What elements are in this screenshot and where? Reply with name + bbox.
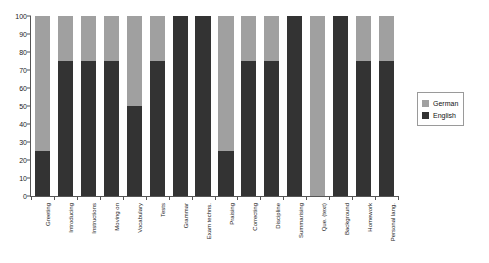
x-axis-label: Personal lang. (390, 203, 396, 241)
bar-segment-english (104, 61, 119, 196)
x-axis-label: Introducing (68, 203, 74, 233)
y-axis-tick-label: 50 (19, 103, 27, 110)
y-axis-tick-label: 40 (19, 121, 27, 128)
y-axis-tick-label: 30 (19, 139, 27, 146)
x-axis-tick-mark (192, 196, 193, 200)
x-axis-tick-mark (123, 196, 124, 200)
y-axis-tick-label: 10 (19, 175, 27, 182)
x-axis-tick-mark (146, 196, 147, 200)
legend-swatch-icon (422, 112, 429, 119)
x-axis-label: Vocabulary (137, 203, 143, 233)
bar-segment-english (35, 151, 50, 196)
x-axis-tick-mark (329, 196, 330, 200)
bar-segment-german (218, 16, 233, 151)
bar-column (333, 16, 348, 196)
bar-column (310, 16, 325, 196)
x-axis-tick-mark (375, 196, 376, 200)
bar-column (264, 16, 279, 196)
bar-segment-english (333, 16, 348, 196)
chart-legend: GermanEnglish (417, 92, 464, 126)
x-axis-label: Exam techns. (206, 203, 212, 239)
bar-segment-german (35, 16, 50, 151)
bar-segment-german (150, 16, 165, 61)
bar-column (127, 16, 142, 196)
bar-column (379, 16, 394, 196)
x-axis-label: Discipline (275, 203, 281, 229)
bar-column (241, 16, 256, 196)
x-axis-tick-mark (283, 196, 284, 200)
x-axis-tick-mark (306, 196, 307, 200)
x-axis-tick-mark (237, 196, 238, 200)
y-axis-tick-label: 60 (19, 85, 27, 92)
x-axis-tick-mark (100, 196, 101, 200)
x-axis-label: Correcting (252, 203, 258, 231)
x-axis-label: Background (344, 203, 350, 235)
bar-column (173, 16, 188, 196)
bar-segment-german (81, 16, 96, 61)
x-axis-label: Greeting (45, 203, 51, 226)
x-axis-tick-mark (398, 196, 399, 200)
bar-segment-english (379, 61, 394, 196)
x-axis-label: Tests (160, 203, 166, 217)
bar-column (35, 16, 50, 196)
bar-segment-english (150, 61, 165, 196)
x-axis-label: Summarising (298, 203, 304, 238)
bar-column (58, 16, 73, 196)
x-axis-label: Moving on (114, 203, 120, 231)
legend-item: English (422, 109, 458, 121)
x-axis-tick-mark (77, 196, 78, 200)
bars-layer (31, 16, 398, 196)
x-axis-tick-mark (169, 196, 170, 200)
x-axis-tick-mark (54, 196, 55, 200)
bar-segment-english (241, 61, 256, 196)
bar-column (150, 16, 165, 196)
x-axis-tick-mark (260, 196, 261, 200)
bar-segment-english (287, 16, 302, 196)
bar-segment-german (58, 16, 73, 61)
bar-segment-english (356, 61, 371, 196)
bar-segment-english (58, 61, 73, 196)
y-axis-tick-label: 90 (19, 31, 27, 38)
bar-segment-german (356, 16, 371, 61)
bar-segment-english (127, 106, 142, 196)
bar-segment-english (173, 16, 188, 196)
y-axis: 0102030405060708090100 (0, 0, 27, 197)
bar-segment-english (218, 151, 233, 196)
x-axis-tick-mark (215, 196, 216, 200)
x-axis-tick-mark (31, 196, 32, 200)
bar-segment-german (127, 16, 142, 106)
bar-column (195, 16, 210, 196)
bar-column (356, 16, 371, 196)
bar-segment-english (81, 61, 96, 196)
legend-swatch-icon (422, 100, 429, 107)
bar-segment-german (310, 16, 325, 196)
bar-segment-english (264, 61, 279, 196)
stacked-bar-chart: 0102030405060708090100 GreetingIntroduci… (0, 0, 489, 263)
x-axis-label: Grammar (183, 203, 189, 228)
bar-segment-german (264, 16, 279, 61)
x-axis-tick-mark (352, 196, 353, 200)
legend-label: English (433, 112, 456, 119)
bar-column (104, 16, 119, 196)
x-axis-label: Homework (367, 203, 373, 232)
bar-segment-german (379, 16, 394, 61)
bar-segment-english (195, 16, 210, 196)
legend-item: German (422, 97, 458, 109)
x-axis-label: Praising (229, 203, 235, 225)
y-axis-tick-label: 70 (19, 67, 27, 74)
y-axis-tick-label: 100 (15, 13, 27, 20)
bar-column (81, 16, 96, 196)
y-axis-tick-label: 80 (19, 49, 27, 56)
x-axis-label: Que. (text) (321, 203, 327, 231)
bar-segment-german (241, 16, 256, 61)
y-axis-tick-label: 20 (19, 157, 27, 164)
legend-label: German (433, 100, 458, 107)
x-axis-label: Instructions (91, 203, 97, 234)
bar-segment-german (104, 16, 119, 61)
bar-column (218, 16, 233, 196)
bar-column (287, 16, 302, 196)
